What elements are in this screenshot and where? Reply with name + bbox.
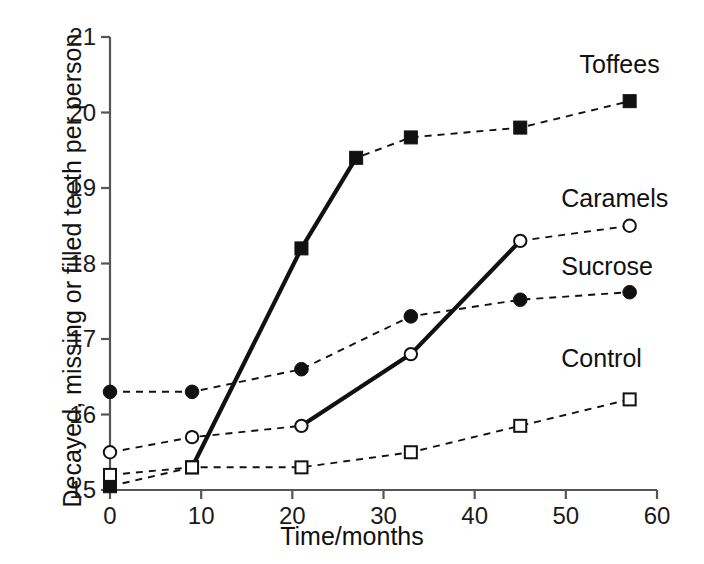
data-series bbox=[103, 95, 636, 493]
marker-filled-circle bbox=[623, 285, 637, 299]
marker-filled-circle bbox=[295, 362, 309, 376]
series-dashed-line bbox=[110, 101, 630, 486]
x-tick-label: 0 bbox=[103, 502, 116, 530]
marker-filled-circle bbox=[513, 293, 527, 307]
series-label-caramels: Caramels bbox=[561, 184, 668, 213]
marker-filled-circle bbox=[185, 385, 199, 399]
marker-open-circle bbox=[405, 348, 417, 360]
dental-caries-line-chart: Decayed, missing or filled teeth per per… bbox=[0, 0, 704, 564]
marker-filled-circle bbox=[103, 385, 117, 399]
series-solid-segment bbox=[192, 158, 356, 468]
marker-open-circle bbox=[186, 431, 198, 443]
marker-filled-circle bbox=[404, 310, 418, 324]
marker-open-circle bbox=[514, 235, 526, 247]
x-tick-label: 60 bbox=[644, 502, 671, 530]
marker-open-square bbox=[624, 393, 636, 405]
marker-filled-square bbox=[295, 242, 308, 255]
marker-open-square bbox=[514, 420, 526, 432]
marker-filled-square bbox=[350, 151, 363, 164]
chart-canvas bbox=[0, 0, 704, 564]
marker-open-square bbox=[104, 469, 116, 481]
marker-filled-square bbox=[514, 121, 527, 134]
x-tick-label: 20 bbox=[279, 502, 306, 530]
marker-filled-square bbox=[404, 131, 417, 144]
x-tick-label: 40 bbox=[461, 502, 488, 530]
marker-open-circle bbox=[104, 446, 116, 458]
series-label-toffees: Toffees bbox=[580, 50, 660, 79]
marker-open-square bbox=[295, 461, 307, 473]
marker-open-square bbox=[186, 461, 198, 473]
series-label-control: Control bbox=[561, 344, 642, 373]
x-tick-label: 30 bbox=[370, 502, 397, 530]
y-tick-label: 16 bbox=[50, 401, 96, 429]
series-toffees bbox=[104, 95, 637, 493]
series-label-sucrose: Sucrose bbox=[561, 252, 653, 281]
y-tick-label: 18 bbox=[50, 250, 96, 278]
y-tick-label: 20 bbox=[50, 99, 96, 127]
series-solid-segment bbox=[301, 241, 520, 426]
marker-open-square bbox=[405, 446, 417, 458]
y-tick-label: 19 bbox=[50, 174, 96, 202]
x-tick-label: 10 bbox=[188, 502, 215, 530]
marker-filled-square bbox=[623, 95, 636, 108]
marker-open-circle bbox=[623, 220, 635, 232]
series-dashed-line bbox=[110, 292, 630, 392]
y-tick-label: 15 bbox=[50, 476, 96, 504]
y-tick-label: 17 bbox=[50, 325, 96, 353]
y-tick-label: 21 bbox=[50, 23, 96, 51]
series-control bbox=[104, 393, 636, 481]
marker-open-circle bbox=[295, 420, 307, 432]
x-tick-label: 50 bbox=[552, 502, 579, 530]
series-caramels bbox=[104, 220, 636, 459]
